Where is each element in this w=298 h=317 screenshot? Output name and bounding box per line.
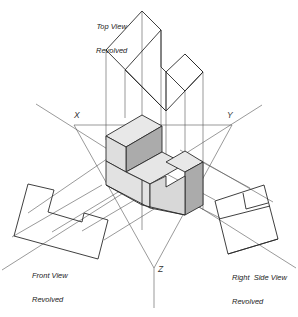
front-view-label-line1: Front View xyxy=(32,272,68,280)
top-view-label: Top View Revolved xyxy=(96,7,127,63)
axis-y-label: Y xyxy=(227,110,233,120)
front-view-revolved xyxy=(14,184,108,259)
top-view-label-line1: Top View xyxy=(96,23,127,31)
axis-x-label: X xyxy=(74,110,80,120)
axis-z-label: Z xyxy=(158,264,163,274)
right-side-view-label-line1: Right Side View xyxy=(232,274,287,282)
isometric-object xyxy=(106,115,203,215)
right-side-view-label-line2: Revolved xyxy=(232,298,287,306)
right-side-view-revolved xyxy=(215,185,278,254)
front-view-label-line2: Revolved xyxy=(32,296,68,304)
right-side-view-label: Right Side View Revolved xyxy=(232,258,287,314)
front-view-label: Front View Revolved xyxy=(32,256,68,312)
top-view-label-line2: Revolved xyxy=(96,47,127,55)
